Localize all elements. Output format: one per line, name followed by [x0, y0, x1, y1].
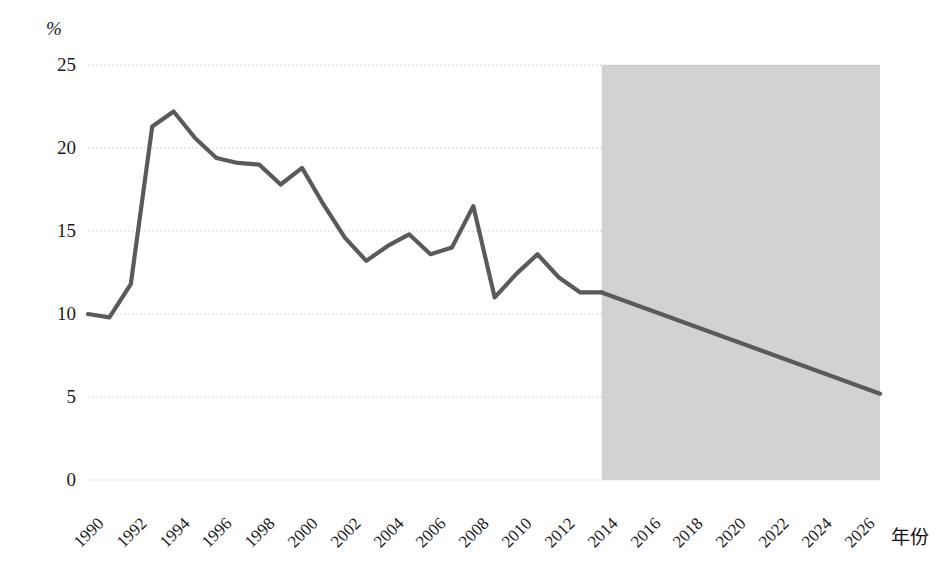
- chart-container: % 2520151050 199019921994199619982000200…: [0, 0, 943, 575]
- forecast-band-rect: [602, 65, 880, 480]
- historical-series-line: [88, 111, 602, 317]
- y-axis-tick-20: 20: [36, 137, 76, 159]
- line-chart-plot: [0, 0, 943, 575]
- y-axis-unit-label: %: [46, 18, 62, 40]
- y-axis-tick-5: 5: [36, 386, 76, 408]
- forecast-shaded-region: [602, 65, 880, 480]
- y-axis-tick-15: 15: [36, 220, 76, 242]
- y-axis-tick-25: 25: [36, 54, 76, 76]
- y-axis-tick-0: 0: [36, 469, 76, 491]
- x-axis-title: 年份: [891, 522, 929, 549]
- historical-line-path: [88, 111, 602, 317]
- y-axis-tick-10: 10: [36, 303, 76, 325]
